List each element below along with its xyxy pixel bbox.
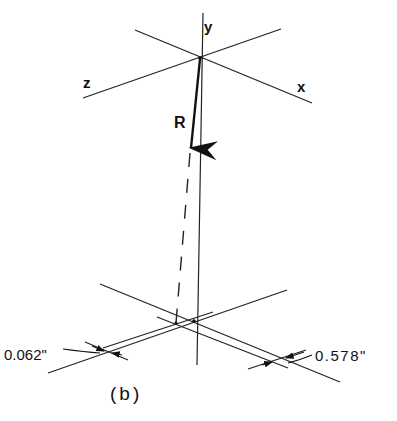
r-vector-arrow (191, 59, 200, 148)
diagram-canvas: y z x R 0.062" 0.578" (b) (0, 0, 397, 421)
lower-z-line (48, 290, 287, 373)
arrow-0578-a (286, 352, 304, 358)
x-axis-label: x (297, 78, 306, 95)
lower-origin (192, 319, 196, 323)
dimension-label-0578: 0.578" (315, 347, 367, 364)
offset-x-line (157, 317, 288, 368)
upper-axes (83, 13, 312, 365)
lower-axes (48, 284, 340, 382)
leader-0062 (63, 349, 100, 353)
dimension-label-0062: 0.062" (4, 346, 47, 363)
short-z-tick (248, 350, 306, 369)
y-axis-label: y (204, 18, 213, 35)
projected-point (175, 322, 178, 325)
z-axis-line (83, 29, 281, 98)
figure-caption: (b) (110, 383, 142, 404)
dashed-projection-line (176, 153, 190, 323)
arrow-0062-a (92, 346, 104, 351)
x-axis-line (135, 30, 312, 103)
r-vector-label: R (174, 114, 186, 131)
z-axis-label: z (83, 74, 91, 91)
lower-x-line (100, 284, 340, 382)
dimension-0578 (262, 352, 312, 365)
